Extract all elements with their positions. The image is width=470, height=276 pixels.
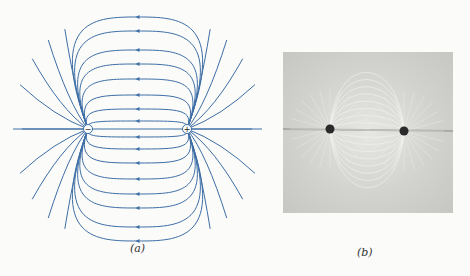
field-line-diagram: −+ — [0, 0, 280, 276]
caption-b: (b) — [357, 246, 373, 259]
caption-a: (a) — [130, 242, 145, 255]
grass-seed-photo — [283, 52, 453, 213]
svg-text:−: − — [85, 125, 92, 134]
svg-text:+: + — [184, 125, 191, 134]
